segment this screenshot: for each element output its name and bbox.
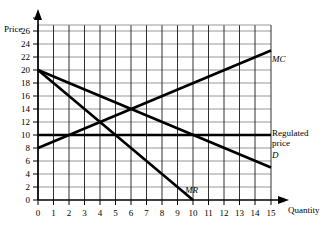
curve-d <box>38 70 271 168</box>
y-tick-label: 16 <box>8 91 30 101</box>
y-tick-label: 24 <box>8 39 30 49</box>
y-axis <box>34 9 42 200</box>
y-tick-label: 22 <box>8 52 30 62</box>
curve-label-regulated-price: Regulated price <box>272 128 309 148</box>
y-tick-label: 26 <box>8 26 30 36</box>
chart-plot-area <box>0 0 336 243</box>
y-tick-label: 0 <box>8 195 30 205</box>
x-axis-title: Quantity <box>288 205 320 215</box>
y-tick-label: 8 <box>8 143 30 153</box>
regulated-price-line1: Regulated <box>272 128 309 138</box>
y-tick-label: 2 <box>8 182 30 192</box>
y-tick-label: 12 <box>8 117 30 127</box>
y-tick-label: 18 <box>8 78 30 88</box>
curve-label-mc: MC <box>272 54 286 64</box>
y-tick-label: 14 <box>8 104 30 114</box>
y-tick-label: 6 <box>8 156 30 166</box>
curve-label-mr: MR <box>185 185 198 195</box>
x-tick-label: 15 <box>261 208 281 218</box>
curve-label-d: D <box>272 150 279 160</box>
horizontal-gridlines <box>38 31 271 187</box>
chart-container: Price Quantity 26 24 22 20 18 16 14 12 1… <box>0 0 336 243</box>
y-tick-label: 10 <box>8 130 30 140</box>
x-axis <box>38 196 289 204</box>
regulated-price-line2: price <box>272 138 309 148</box>
y-tick-label: 4 <box>8 169 30 179</box>
y-tick-label: 20 <box>8 65 30 75</box>
